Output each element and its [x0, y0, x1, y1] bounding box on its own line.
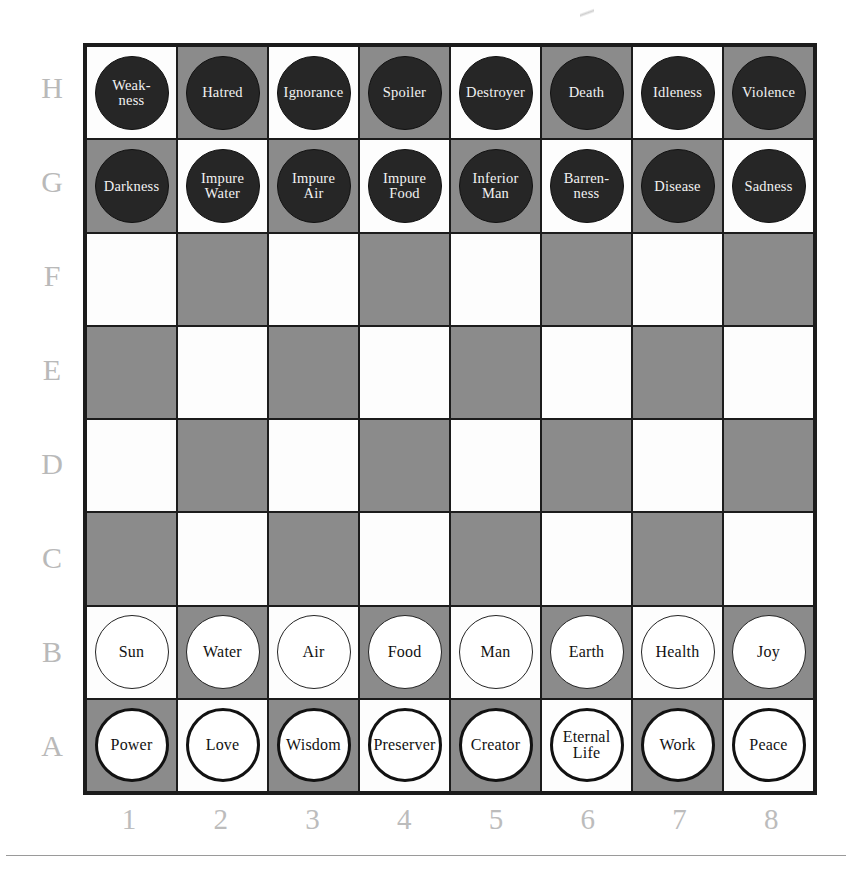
piece-H6[interactable]: Death — [550, 56, 624, 130]
board-square-G4[interactable]: Impure Food — [359, 139, 450, 232]
piece-G8[interactable]: Sadness — [732, 149, 806, 223]
piece-H3[interactable]: Ignorance — [277, 56, 351, 130]
board-square-A6[interactable]: Eternal Life — [541, 699, 632, 792]
board-square-F1[interactable] — [86, 233, 177, 326]
board-square-G3[interactable]: Impure Air — [268, 139, 359, 232]
piece-G4[interactable]: Impure Food — [368, 149, 442, 223]
board-square-D3[interactable] — [268, 419, 359, 512]
board-square-E4[interactable] — [359, 326, 450, 419]
board-square-D7[interactable] — [632, 419, 723, 512]
piece-H2[interactable]: Hatred — [186, 56, 260, 130]
board-square-A2[interactable]: Love — [177, 699, 268, 792]
piece-B1[interactable]: Sun — [95, 615, 169, 689]
board-square-F4[interactable] — [359, 233, 450, 326]
piece-A1[interactable]: Power — [95, 708, 169, 782]
board-square-A4[interactable]: Preserver — [359, 699, 450, 792]
board-square-C7[interactable] — [632, 512, 723, 605]
board-square-E5[interactable] — [450, 326, 541, 419]
board-square-H2[interactable]: Hatred — [177, 46, 268, 139]
piece-label: Creator — [469, 737, 522, 753]
piece-H8[interactable]: Violence — [732, 56, 806, 130]
board-square-A8[interactable]: Peace — [723, 699, 814, 792]
board-square-F8[interactable] — [723, 233, 814, 326]
board-square-H1[interactable]: Weak- ness — [86, 46, 177, 139]
piece-B7[interactable]: Health — [641, 615, 715, 689]
piece-G7[interactable]: Disease — [641, 149, 715, 223]
piece-label: Sadness — [742, 179, 794, 194]
piece-A5[interactable]: Creator — [459, 708, 533, 782]
board-square-F7[interactable] — [632, 233, 723, 326]
board-square-A3[interactable]: Wisdom — [268, 699, 359, 792]
board-square-E8[interactable] — [723, 326, 814, 419]
board-square-H4[interactable]: Spoiler — [359, 46, 450, 139]
piece-B5[interactable]: Man — [459, 615, 533, 689]
board-square-A5[interactable]: Creator — [450, 699, 541, 792]
board-square-C2[interactable] — [177, 512, 268, 605]
piece-B2[interactable]: Water — [186, 615, 260, 689]
board-square-E3[interactable] — [268, 326, 359, 419]
board-square-D5[interactable] — [450, 419, 541, 512]
board-square-C6[interactable] — [541, 512, 632, 605]
piece-G5[interactable]: Inferior Man — [459, 149, 533, 223]
board-square-H7[interactable]: Idleness — [632, 46, 723, 139]
board-square-H6[interactable]: Death — [541, 46, 632, 139]
board-square-D2[interactable] — [177, 419, 268, 512]
board-square-G6[interactable]: Barren- ness — [541, 139, 632, 232]
board-square-B1[interactable]: Sun — [86, 606, 177, 699]
board-square-G8[interactable]: Sadness — [723, 139, 814, 232]
piece-G2[interactable]: Impure Water — [186, 149, 260, 223]
board-square-B5[interactable]: Man — [450, 606, 541, 699]
board-square-B8[interactable]: Joy — [723, 606, 814, 699]
board-square-E7[interactable] — [632, 326, 723, 419]
board-square-B7[interactable]: Health — [632, 606, 723, 699]
board-square-F3[interactable] — [268, 233, 359, 326]
chess-board[interactable]: Weak- nessHatredIgnoranceSpoilerDestroye… — [83, 43, 817, 795]
board-square-G5[interactable]: Inferior Man — [450, 139, 541, 232]
board-square-H3[interactable]: Ignorance — [268, 46, 359, 139]
board-square-A7[interactable]: Work — [632, 699, 723, 792]
board-square-B4[interactable]: Food — [359, 606, 450, 699]
piece-B6[interactable]: Earth — [550, 615, 624, 689]
board-square-E6[interactable] — [541, 326, 632, 419]
board-square-E2[interactable] — [177, 326, 268, 419]
piece-A8[interactable]: Peace — [732, 708, 806, 782]
piece-B8[interactable]: Joy — [732, 615, 806, 689]
board-square-C1[interactable] — [86, 512, 177, 605]
board-square-A1[interactable]: Power — [86, 699, 177, 792]
piece-B4[interactable]: Food — [368, 615, 442, 689]
board-square-F2[interactable] — [177, 233, 268, 326]
board-square-G7[interactable]: Disease — [632, 139, 723, 232]
piece-A4[interactable]: Preserver — [368, 708, 442, 782]
board-square-G2[interactable]: Impure Water — [177, 139, 268, 232]
board-square-B2[interactable]: Water — [177, 606, 268, 699]
board-square-F5[interactable] — [450, 233, 541, 326]
board-square-B3[interactable]: Air — [268, 606, 359, 699]
board-square-D4[interactable] — [359, 419, 450, 512]
board-square-D6[interactable] — [541, 419, 632, 512]
board-square-E1[interactable] — [86, 326, 177, 419]
piece-H7[interactable]: Idleness — [641, 56, 715, 130]
piece-H4[interactable]: Spoiler — [368, 56, 442, 130]
board-square-C8[interactable] — [723, 512, 814, 605]
rank-label-A: A — [30, 731, 74, 761]
board-square-C3[interactable] — [268, 512, 359, 605]
piece-H5[interactable]: Destroyer — [459, 56, 533, 130]
piece-A7[interactable]: Work — [641, 708, 715, 782]
board-square-H5[interactable]: Destroyer — [450, 46, 541, 139]
piece-H1[interactable]: Weak- ness — [95, 56, 169, 130]
board-square-C5[interactable] — [450, 512, 541, 605]
piece-G3[interactable]: Impure Air — [277, 149, 351, 223]
board-square-G1[interactable]: Darkness — [86, 139, 177, 232]
piece-A3[interactable]: Wisdom — [277, 708, 351, 782]
piece-A2[interactable]: Love — [186, 708, 260, 782]
board-square-F6[interactable] — [541, 233, 632, 326]
board-square-H8[interactable]: Violence — [723, 46, 814, 139]
board-square-C4[interactable] — [359, 512, 450, 605]
board-square-B6[interactable]: Earth — [541, 606, 632, 699]
board-square-D8[interactable] — [723, 419, 814, 512]
piece-G6[interactable]: Barren- ness — [550, 149, 624, 223]
board-square-D1[interactable] — [86, 419, 177, 512]
piece-B3[interactable]: Air — [277, 615, 351, 689]
piece-G1[interactable]: Darkness — [95, 149, 169, 223]
piece-A6[interactable]: Eternal Life — [550, 708, 624, 782]
